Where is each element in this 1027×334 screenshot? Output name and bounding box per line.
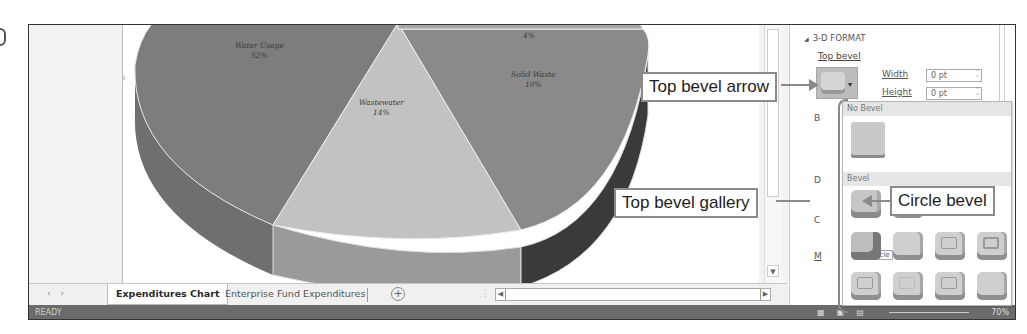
callout-circle-bevel: Circle bevel bbox=[890, 186, 995, 216]
gallery-section-no-bevel: No Bevel bbox=[843, 102, 1011, 116]
section-title: 3-D FORMAT bbox=[813, 33, 866, 43]
pie-label-water-usage: Water Usage 52% bbox=[235, 41, 284, 61]
next-sheet-icon[interactable]: › bbox=[61, 288, 75, 298]
tab-enterprise-fund-expenditures[interactable]: Enterprise Fund Expenditures bbox=[217, 284, 373, 305]
partial-frame-decoration bbox=[0, 28, 6, 46]
callout-arrow-icon bbox=[862, 195, 872, 207]
slice-percent: 4% bbox=[523, 31, 535, 41]
bottom-bevel-label: B bbox=[814, 113, 820, 123]
spin-icon[interactable]: ˄˅ bbox=[976, 69, 979, 81]
height-input[interactable]: 0 pt ˄˅ bbox=[926, 87, 982, 100]
scroll-left-icon[interactable]: ◀ bbox=[496, 289, 506, 300]
slice-name: Solid Waste bbox=[511, 70, 555, 80]
slice-percent: 10% bbox=[511, 80, 555, 90]
page-break-icon[interactable]: ▤ bbox=[856, 308, 876, 317]
zoom-level[interactable]: 70% bbox=[991, 308, 1009, 317]
top-bevel-label: Top bevel bbox=[818, 51, 861, 61]
slice-percent: 14% bbox=[359, 108, 404, 118]
bevel-option-soft-round[interactable] bbox=[977, 232, 1007, 260]
bevel-preview-icon bbox=[821, 72, 845, 94]
bevel-option-none[interactable] bbox=[851, 122, 885, 158]
bevel-option-divot[interactable] bbox=[935, 272, 965, 300]
callout-top-bevel-gallery: Top bevel gallery bbox=[614, 188, 758, 218]
depth-label: D bbox=[814, 175, 821, 185]
height-value: 0 pt bbox=[931, 89, 947, 98]
slice-percent: 52% bbox=[235, 51, 284, 61]
width-label: Width bbox=[882, 69, 908, 79]
material-label: M bbox=[814, 251, 822, 261]
section-3d-format[interactable]: ◢3-D FORMAT bbox=[804, 33, 866, 43]
normal-view-icon[interactable]: ▦ bbox=[817, 308, 837, 317]
excel-window: Water Usage 52% Wastewater 14% Solid Was… bbox=[28, 24, 1016, 320]
tab-splitter[interactable]: ⋮ bbox=[481, 289, 489, 298]
prev-sheet-icon[interactable]: ‹ bbox=[47, 288, 61, 298]
pie-label-wastewater: Wastewater 14% bbox=[359, 98, 404, 118]
vertical-scrollbar[interactable]: ▼ bbox=[764, 25, 782, 283]
slice-name: Water Usage bbox=[235, 41, 284, 51]
status-bar: READY ▦▣▤ 70% bbox=[29, 305, 1016, 320]
scroll-right-icon[interactable]: ▶ bbox=[760, 289, 770, 300]
width-value: 0 pt bbox=[931, 71, 947, 80]
status-text: READY bbox=[35, 308, 62, 317]
scroll-thumb[interactable] bbox=[767, 29, 779, 197]
bevel-option-convex[interactable] bbox=[851, 272, 881, 300]
scroll-down-icon[interactable]: ▼ bbox=[767, 265, 779, 277]
sheet-nav-arrows[interactable]: ‹› bbox=[47, 288, 74, 298]
tab-expenditures-chart[interactable]: Expenditures Chart bbox=[107, 284, 228, 305]
callout-connector bbox=[872, 200, 890, 202]
pie-label-small-slice: 4% bbox=[523, 31, 535, 41]
callout-connector bbox=[781, 84, 809, 86]
bevel-option-riblet[interactable] bbox=[977, 272, 1007, 300]
callout-top-bevel-arrow: Top bevel arrow bbox=[641, 72, 777, 102]
bevel-option-cross[interactable] bbox=[851, 232, 881, 260]
contour-label: C bbox=[814, 215, 820, 225]
bevel-option-cool-slant[interactable] bbox=[893, 232, 923, 260]
bevel-option-angle[interactable] bbox=[935, 232, 965, 260]
width-input[interactable]: 0 pt ˄˅ bbox=[926, 69, 982, 82]
slice-name: Wastewater bbox=[359, 98, 404, 108]
collapse-icon: ◢ bbox=[804, 35, 809, 42]
tab-separator bbox=[367, 288, 368, 302]
add-sheet-button[interactable]: + bbox=[391, 287, 405, 301]
zoom-slider[interactable] bbox=[889, 312, 969, 313]
gallery-section-bevel: Bevel bbox=[843, 172, 1011, 186]
format-chart-pane: ◢3-D FORMAT Top bevel ▾ Width 0 pt ˄˅ He… bbox=[789, 25, 1016, 305]
horizontal-scrollbar[interactable]: ◀ ▶ bbox=[495, 288, 771, 301]
height-label: Height bbox=[882, 87, 912, 97]
spin-icon[interactable]: ˄˅ bbox=[976, 87, 979, 99]
callout-connector bbox=[776, 200, 810, 202]
bevel-option-slope[interactable] bbox=[893, 272, 923, 300]
chart-area[interactable]: Water Usage 52% Wastewater 14% Solid Was… bbox=[122, 25, 759, 283]
top-bevel-dropdown-button[interactable]: ▾ bbox=[816, 67, 858, 99]
callout-arrow-icon bbox=[809, 79, 819, 91]
sheet-tab-bar: ‹› Expenditures Chart Enterprise Fund Ex… bbox=[29, 283, 787, 305]
dropdown-arrow-icon[interactable]: ▾ bbox=[848, 80, 852, 89]
pie-chart-3d[interactable] bbox=[123, 25, 759, 283]
pie-label-solid-waste: Solid Waste 10% bbox=[511, 70, 555, 90]
